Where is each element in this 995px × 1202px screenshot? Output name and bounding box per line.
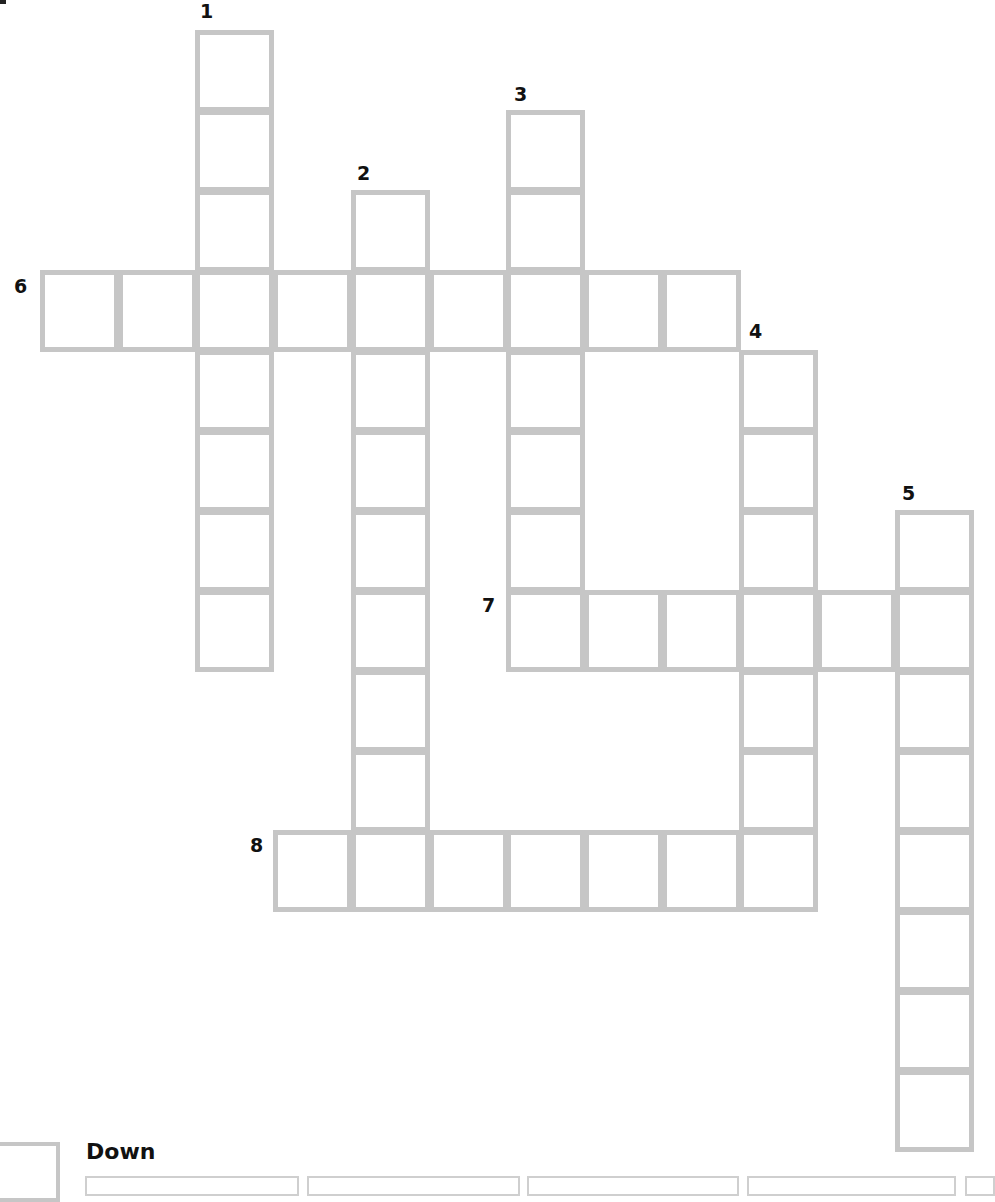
crossword-cell[interactable]: [662, 590, 741, 672]
crossword-cell[interactable]: [739, 830, 818, 912]
crossword-cell[interactable]: [739, 670, 818, 752]
crossword-cell[interactable]: [351, 270, 430, 352]
crossword-cell[interactable]: [895, 830, 974, 912]
clue-number-5: 5: [902, 484, 915, 503]
crossword-cell[interactable]: [195, 270, 274, 352]
partial-answer-box: [0, 1142, 60, 1202]
crossword-cell[interactable]: [506, 830, 585, 912]
crossword-cell[interactable]: [739, 590, 818, 672]
down-clue-box: [307, 1176, 520, 1196]
clue-number-1: 1: [200, 2, 213, 21]
crossword-cell[interactable]: [195, 430, 274, 512]
down-clues-heading: Down: [86, 1139, 155, 1164]
crossword-cell[interactable]: [506, 510, 585, 592]
down-clue-box: [527, 1176, 739, 1196]
crossword-cell[interactable]: [817, 590, 896, 672]
crossword-cell[interactable]: [351, 350, 430, 432]
crossword-cell[interactable]: [351, 430, 430, 512]
crossword-cell[interactable]: [429, 270, 508, 352]
crossword-cell[interactable]: [739, 750, 818, 832]
crossword-cell[interactable]: [195, 350, 274, 432]
crossword-cell[interactable]: [429, 830, 508, 912]
crossword-cell[interactable]: [584, 270, 663, 352]
crossword-cell[interactable]: [195, 30, 274, 112]
crossword-cell[interactable]: [118, 270, 197, 352]
crossword-cell[interactable]: [739, 430, 818, 512]
down-clue-box: [747, 1176, 956, 1196]
crossword-cell[interactable]: [351, 510, 430, 592]
crossword-cell[interactable]: [506, 270, 585, 352]
crossword-cell[interactable]: [739, 350, 818, 432]
crossword-cell[interactable]: [351, 830, 430, 912]
down-clue-box: [85, 1176, 299, 1196]
crossword-cell[interactable]: [895, 1070, 974, 1152]
crossword-cell[interactable]: [195, 190, 274, 272]
page-edge-mark: [0, 0, 6, 4]
crossword-cell[interactable]: [895, 590, 974, 672]
crossword-cell[interactable]: [40, 270, 119, 352]
crossword-cell[interactable]: [739, 510, 818, 592]
crossword-cell[interactable]: [351, 670, 430, 752]
crossword-cell[interactable]: [506, 430, 585, 512]
crossword-cell[interactable]: [895, 910, 974, 992]
crossword-cell[interactable]: [506, 350, 585, 432]
crossword-cell[interactable]: [273, 270, 352, 352]
clue-number-8: 8: [250, 836, 263, 855]
crossword-cell[interactable]: [273, 830, 352, 912]
crossword-cell[interactable]: [584, 830, 663, 912]
clue-number-6: 6: [14, 277, 27, 296]
crossword-cell[interactable]: [351, 190, 430, 272]
crossword-cell[interactable]: [895, 750, 974, 832]
crossword-cell[interactable]: [662, 830, 741, 912]
clue-number-7: 7: [482, 596, 495, 615]
crossword-cell[interactable]: [351, 590, 430, 672]
crossword-cell[interactable]: [506, 190, 585, 272]
clue-number-3: 3: [514, 85, 527, 104]
crossword-cell[interactable]: [662, 270, 741, 352]
crossword-cell[interactable]: [895, 990, 974, 1072]
crossword-cell[interactable]: [195, 110, 274, 192]
crossword-cell[interactable]: [895, 510, 974, 592]
crossword-cell[interactable]: [584, 590, 663, 672]
crossword-cell[interactable]: [351, 750, 430, 832]
clue-number-4: 4: [749, 322, 762, 341]
clue-number-2: 2: [357, 164, 370, 183]
down-clue-box: [965, 1176, 995, 1196]
crossword-cell[interactable]: [195, 510, 274, 592]
crossword-cell[interactable]: [506, 590, 585, 672]
crossword-cell[interactable]: [506, 110, 585, 192]
crossword-cell[interactable]: [195, 590, 274, 672]
crossword-cell[interactable]: [895, 670, 974, 752]
